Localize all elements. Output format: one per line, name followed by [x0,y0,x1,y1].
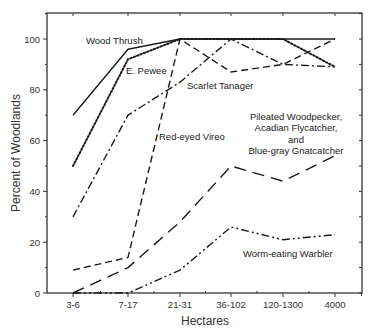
x-tick-label: 4000 [324,299,345,310]
series-label: and [288,134,304,145]
x-tick-label: 120-1300 [263,299,303,310]
series-label: Worm-eating Warbler [243,248,333,259]
y-tick-label: 100 [24,34,40,45]
series-label: E. Pewee [126,65,167,76]
x-tick-label: 7-17 [118,299,137,310]
series-label: Red-eyed Vireo [159,131,225,142]
series-line-0 [73,39,335,115]
series-label: Blue-gray Gnatcatcher [248,145,343,156]
x-tick-label: 36-102 [216,299,246,310]
y-axis-title: Percent of Woodlands [9,94,23,212]
x-tick-label: 21-31 [168,299,192,310]
series-label: Acadian Flycatcher, [255,122,338,133]
series-labels: Wood ThrushE. PeweeScarlet TanagerRed-ey… [86,35,344,259]
line-chart: 020406080100 3-67-1721-3136-102120-13004… [0,0,377,333]
series-label: Scarlet Tanager [187,80,253,91]
series-label: Pileated Woodpecker, [250,111,342,122]
x-tick-label: 3-6 [66,299,80,310]
y-tick-label: 0 [35,288,40,299]
y-tick-label: 40 [29,186,40,197]
series-line-4 [73,156,335,293]
x-axis-title: Hectares [181,314,229,328]
series-label: Wood Thrush [86,35,143,46]
y-tick-label: 60 [29,135,40,146]
y-tick-label: 20 [29,237,40,248]
series-line-5 [73,227,335,293]
y-tick-label: 80 [29,84,40,95]
